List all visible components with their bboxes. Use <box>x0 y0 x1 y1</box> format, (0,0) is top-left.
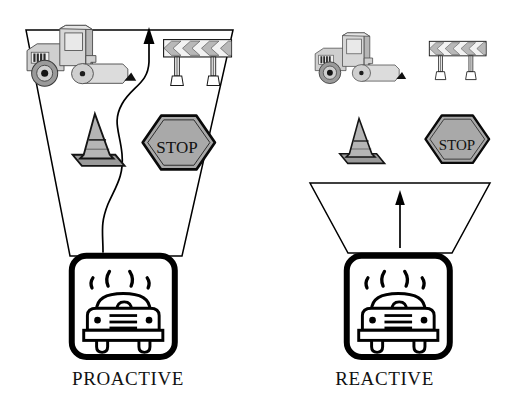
figure-canvas: STOP STOP <box>0 0 513 406</box>
reactive-barricade <box>429 41 486 79</box>
reactive-car-icon <box>347 256 450 357</box>
reactive-road-roller <box>315 33 406 84</box>
reactive-stop-sign-label: STOP <box>439 137 475 153</box>
proactive-stop-sign-label: STOP <box>156 138 197 157</box>
panel-reactive: STOP <box>310 33 490 357</box>
panel-proactive: STOP <box>26 25 233 357</box>
proactive-reactive-diagram: STOP STOP <box>0 0 513 406</box>
proactive-car-icon <box>72 256 175 357</box>
reactive-traffic-cone <box>340 119 385 164</box>
